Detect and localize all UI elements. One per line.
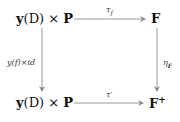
node-top-left: y(D) × P: [16, 12, 73, 25]
domain-times: (D) ×: [24, 95, 64, 110]
node-top-right: F: [151, 12, 160, 25]
domain-times: (D) ×: [24, 11, 64, 26]
node-bottom-right: F+: [149, 96, 166, 110]
f-symbol: F: [151, 11, 160, 26]
label-top: τf: [106, 6, 113, 16]
yoneda-symbol: y: [16, 11, 24, 26]
f-symbol: F: [149, 96, 158, 111]
p-symbol: P: [63, 95, 73, 110]
label-left: y(f)×id: [7, 59, 35, 67]
p-symbol: P: [63, 11, 73, 26]
label-bottom: τ′: [106, 91, 112, 99]
plus-sup: +: [158, 95, 166, 105]
yoneda-symbol: y: [16, 95, 24, 110]
label-right: ηF: [163, 59, 172, 69]
node-bottom-left: y(D) × P: [16, 96, 73, 109]
